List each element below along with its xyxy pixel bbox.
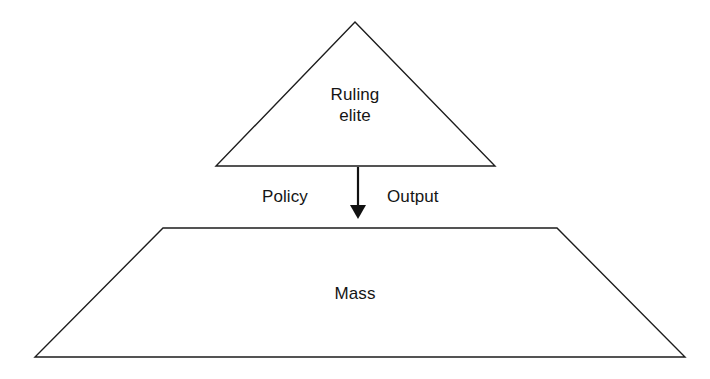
diagram-canvas: Rulingelite Policy Output Mass [0, 0, 710, 379]
mass-label: Mass [0, 283, 710, 304]
ruling-elite-label: Rulingelite [0, 84, 710, 126]
output-label: Output [387, 186, 439, 207]
diagram-graphics [0, 0, 710, 379]
ruling-elite-label-line-1: Ruling [331, 85, 380, 104]
ruling-elite-label-line-2: elite [339, 106, 371, 125]
policy-output-arrow-head [350, 205, 366, 219]
policy-label: Policy [262, 186, 308, 207]
